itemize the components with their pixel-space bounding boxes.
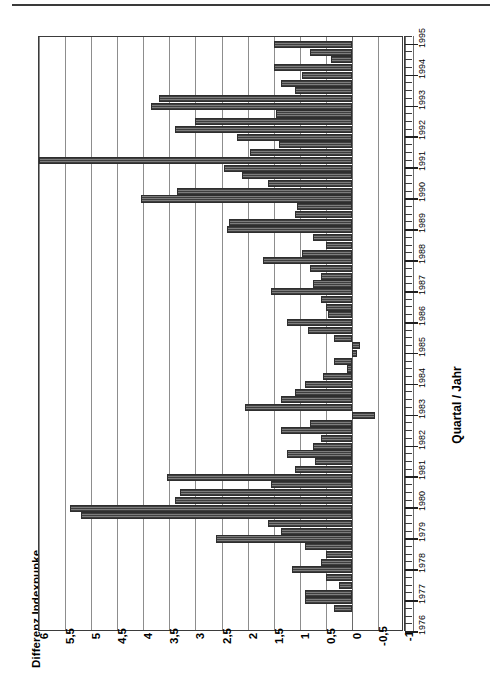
quarter-tick-minor xyxy=(405,623,412,624)
bar xyxy=(292,566,352,573)
value-tick-label: 5 xyxy=(90,616,102,656)
value-axis: 65,554,543,532,521,510,50-0,5-1 xyxy=(38,636,403,676)
bar xyxy=(175,126,352,133)
quarter-tick-minor xyxy=(405,585,412,586)
bar xyxy=(326,574,352,581)
bar xyxy=(302,72,352,79)
quarter-tick-minor xyxy=(405,368,412,369)
quarter-tick-minor xyxy=(405,484,412,485)
bar xyxy=(81,512,352,519)
quarter-tick-minor xyxy=(405,453,412,454)
bar xyxy=(250,149,352,156)
quarter-tick-minor xyxy=(405,59,412,60)
quarter-tick-minor xyxy=(405,283,412,284)
quarter-tick-minor xyxy=(405,492,412,493)
bar xyxy=(315,458,352,465)
bar xyxy=(347,365,352,372)
bar xyxy=(227,226,352,233)
bar xyxy=(245,404,352,411)
quarter-tick-minor xyxy=(405,461,412,462)
bar xyxy=(268,180,351,187)
bar xyxy=(308,327,352,334)
year-tick-label: 1978 xyxy=(417,553,427,573)
bar xyxy=(295,87,352,94)
quarter-tick-minor xyxy=(405,67,412,68)
quarter-tick-minor xyxy=(405,98,412,99)
year-tick-label: 1994 xyxy=(417,59,427,79)
quarter-tick-minor xyxy=(405,160,412,161)
gridline-5 xyxy=(91,37,92,630)
quarter-tick-minor xyxy=(405,430,412,431)
year-tick-label: 1988 xyxy=(417,244,427,264)
bar xyxy=(281,427,351,434)
year-tick-label: 1993 xyxy=(417,90,427,110)
value-tick-label: 1 xyxy=(299,616,311,656)
value-tick-label: 0,5 xyxy=(325,616,337,656)
bar xyxy=(151,103,352,110)
bar xyxy=(274,41,352,48)
bar xyxy=(334,358,352,365)
year-tick-label: 1976 xyxy=(417,615,427,635)
bar xyxy=(305,381,352,388)
quarter-tick-minor xyxy=(405,577,412,578)
bar xyxy=(313,234,352,241)
year-tick-label: 1985 xyxy=(417,337,427,357)
quarter-tick-minor xyxy=(405,592,412,593)
bar xyxy=(313,280,352,287)
year-tick-label: 1990 xyxy=(417,182,427,202)
quarter-tick-minor xyxy=(405,299,412,300)
quarter-tick-minor xyxy=(405,399,412,400)
quarter-tick-minor xyxy=(405,407,412,408)
bar xyxy=(305,543,352,550)
bar xyxy=(229,219,352,226)
year-tick-label: 1983 xyxy=(417,399,427,419)
bar xyxy=(339,582,352,589)
bar xyxy=(70,505,352,512)
value-tick-label: 5,5 xyxy=(64,616,76,656)
quarter-tick-minor xyxy=(405,152,412,153)
bar xyxy=(302,250,352,257)
quarter-tick-minor xyxy=(405,561,412,562)
bar xyxy=(237,134,352,141)
gridline-neg0_5 xyxy=(378,37,379,630)
bar xyxy=(352,350,357,357)
bar xyxy=(276,110,352,117)
bar xyxy=(310,265,352,272)
quarter-tick-minor xyxy=(405,345,412,346)
year-tick-label: 1981 xyxy=(417,460,427,480)
bar xyxy=(326,551,352,558)
quarter-tick-minor xyxy=(405,214,412,215)
quarter-tick-minor xyxy=(405,36,412,37)
quarter-tick-minor xyxy=(405,500,412,501)
year-tick-label: 1979 xyxy=(417,522,427,542)
gridline-6 xyxy=(39,37,40,630)
bar xyxy=(297,203,352,210)
quarter-tick-minor xyxy=(405,221,412,222)
quarter-tick-minor xyxy=(405,121,412,122)
bar xyxy=(287,319,352,326)
quarter-tick-minor xyxy=(405,554,412,555)
bar xyxy=(321,296,352,303)
value-tick-label: 4 xyxy=(142,616,154,656)
bar xyxy=(334,605,352,612)
quarter-tick-minor xyxy=(405,515,412,516)
bar xyxy=(334,335,352,342)
quarter-tick-minor xyxy=(405,523,412,524)
bar xyxy=(268,520,351,527)
value-tick-label: 2,5 xyxy=(221,616,233,656)
bar xyxy=(175,497,352,504)
quarter-tick-minor xyxy=(405,438,412,439)
gridline-5_5 xyxy=(65,37,66,630)
quarter-tick-minor xyxy=(405,330,412,331)
quarter-tick-minor xyxy=(405,183,412,184)
quarter-tick-minor xyxy=(405,206,412,207)
quarter-tick-minor xyxy=(405,616,412,617)
bar xyxy=(323,373,352,380)
year-tick-label: 1984 xyxy=(417,368,427,388)
bar xyxy=(326,304,352,311)
quarter-tick-minor xyxy=(405,191,412,192)
bar xyxy=(39,157,352,164)
bar xyxy=(263,257,352,264)
year-tick-label: 1991 xyxy=(417,151,427,171)
bar xyxy=(271,481,352,488)
